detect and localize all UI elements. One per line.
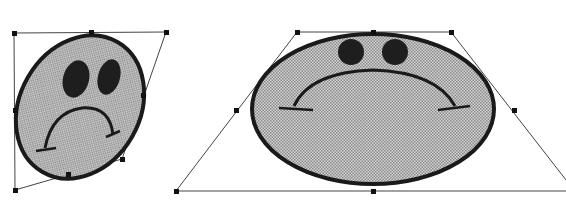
- handle[interactable]: [234, 108, 239, 113]
- canvas: [0, 0, 566, 220]
- handle[interactable]: [512, 108, 517, 113]
- handle[interactable]: [66, 172, 71, 177]
- handle[interactable]: [164, 30, 169, 35]
- handle[interactable]: [371, 189, 376, 194]
- trapezoid-face-right-eye-icon: [382, 39, 408, 65]
- trapezoid-face-group[interactable]: [174, 30, 566, 194]
- handle[interactable]: [449, 30, 454, 35]
- trapezoid-face-left-eye-icon: [338, 39, 364, 65]
- handle[interactable]: [13, 108, 18, 113]
- skewed-face-group[interactable]: [0, 12, 169, 202]
- handle[interactable]: [12, 31, 17, 36]
- handle[interactable]: [174, 189, 179, 194]
- handle[interactable]: [141, 93, 146, 98]
- handle[interactable]: [371, 30, 376, 35]
- handle[interactable]: [13, 188, 18, 193]
- handle[interactable]: [120, 157, 125, 162]
- handle[interactable]: [89, 30, 94, 35]
- handle[interactable]: [295, 30, 300, 35]
